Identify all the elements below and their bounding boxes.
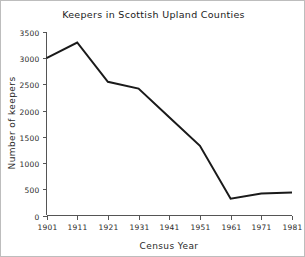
y-axis: 0500100015002000250030003500 Number of k… [7,29,47,222]
x-tick-label: 1981 [283,223,303,232]
x-tick-label: 1911 [68,223,88,232]
y-tick-label: 0 [35,213,40,222]
y-tick-label: 2000 [20,108,40,117]
x-tick-label: 1941 [160,223,180,232]
y-tick-label: 1500 [20,134,40,143]
data-series-line [47,42,293,198]
x-tick-label: 1971 [252,223,272,232]
x-axis: 190119111921193119411951196119711981 Cen… [38,216,303,252]
y-axis-label: Number of keepers [7,77,17,170]
y-tick-marks [43,33,47,217]
x-tick-label: 1961 [222,223,242,232]
x-tick-label: 1951 [191,223,211,232]
x-axis-label: Census Year [140,241,199,251]
x-tick-label: 1901 [38,223,58,232]
chart-figure: Keepers in Scottish Upland Counties 0500… [0,0,305,257]
x-tick-labels: 190119111921193119411951196119711981 [38,223,303,232]
x-tick-label: 1921 [99,223,119,232]
y-tick-label: 1000 [20,160,40,169]
y-tick-label: 2500 [20,81,40,90]
x-tick-marks [48,216,293,220]
y-tick-labels: 0500100015002000250030003500 [20,29,40,222]
y-tick-label: 500 [25,186,40,195]
x-tick-label: 1931 [130,223,150,232]
y-tick-label: 3000 [20,55,40,64]
y-tick-label: 3500 [20,29,40,38]
line-chart-plot: 0500100015002000250030003500 Number of k… [1,1,305,257]
